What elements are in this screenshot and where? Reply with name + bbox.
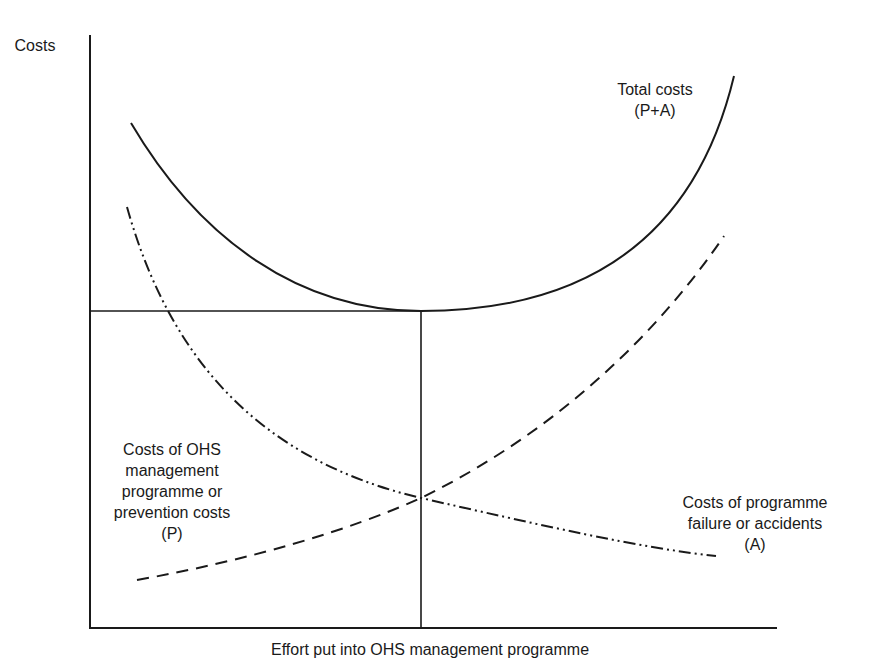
label-line: (A) <box>665 534 845 555</box>
label-line: Costs of programme <box>665 492 845 513</box>
label-line: failure or accidents <box>665 513 845 534</box>
x-axis-label: Effort put into OHS management programme <box>170 639 690 660</box>
label-line: (P+A) <box>590 100 720 121</box>
label-line: Costs of OHS <box>92 439 252 460</box>
y-axis-label: Costs <box>0 35 70 56</box>
label-line: prevention costs <box>92 502 252 523</box>
label-line: Total costs <box>590 79 720 100</box>
label-line: (P) <box>92 523 252 544</box>
accident-costs-label: Costs of programme failure or accidents … <box>665 492 845 555</box>
label-line: programme or <box>92 481 252 502</box>
cost-diagram <box>0 0 883 671</box>
total-costs-label: Total costs (P+A) <box>590 79 720 121</box>
label-line: management <box>92 460 252 481</box>
prevention-costs-label: Costs of OHS management programme or pre… <box>92 439 252 544</box>
